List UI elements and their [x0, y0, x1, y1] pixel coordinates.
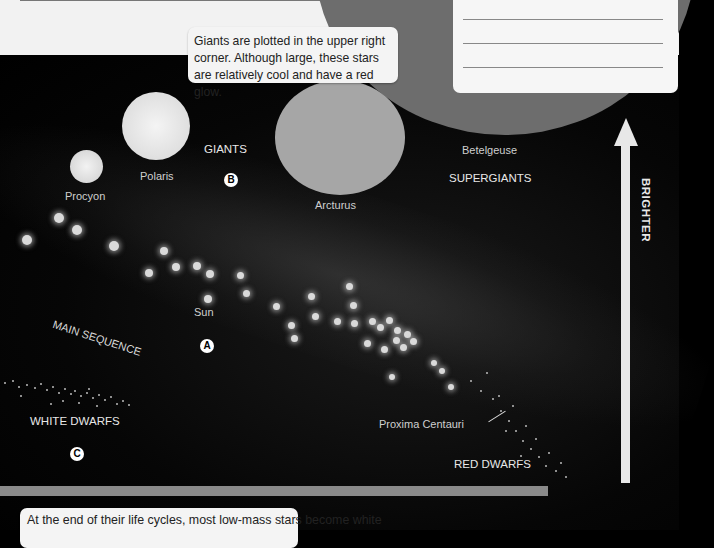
marker-c: C	[70, 447, 84, 461]
star-dot	[334, 318, 341, 325]
label-red-dwarfs: RED DWARFS	[454, 458, 531, 470]
star-dot	[404, 331, 411, 338]
label-giants: GIANTS	[204, 143, 247, 155]
temperature-axis-bar	[0, 486, 548, 496]
star-dot	[273, 303, 280, 310]
star-dot	[394, 327, 401, 334]
label-proxima-centauri: Proxima Centauri	[379, 418, 464, 430]
star-dot	[172, 263, 180, 271]
marker-b: B	[224, 173, 238, 187]
star-dot	[400, 344, 407, 351]
star-dot	[351, 320, 358, 327]
notes-line	[463, 67, 663, 68]
star-dot	[369, 318, 376, 325]
star-dot	[145, 269, 153, 277]
star-dot	[346, 283, 353, 290]
star-dot	[109, 241, 119, 251]
star-dot	[389, 374, 395, 380]
star-dot	[431, 360, 437, 366]
star-dot	[243, 290, 250, 297]
star-dot	[237, 272, 244, 279]
star-dot	[54, 213, 64, 223]
star-dot	[160, 247, 168, 255]
star-dot	[381, 346, 388, 353]
star-dot	[288, 322, 295, 329]
label-polaris: Polaris	[140, 170, 174, 182]
star-polaris	[122, 92, 190, 160]
star-dot	[393, 337, 400, 344]
label-betelgeuse: Betelgeuse	[462, 144, 517, 156]
label-supergiants: SUPERGIANTS	[449, 172, 531, 184]
star-dot-sun	[204, 295, 212, 303]
marker-a: A	[200, 339, 214, 353]
label-brighter: BRIGHTER	[640, 178, 652, 242]
star-dot	[72, 225, 82, 235]
white-dwarfs-callout: At the end of their life cycles, most lo…	[20, 508, 298, 548]
notes-line	[463, 19, 663, 20]
star-dot	[386, 317, 393, 324]
star-dot	[193, 262, 201, 270]
arrow-up-icon	[614, 118, 638, 146]
star-dot	[410, 338, 417, 345]
star-dot	[448, 384, 454, 390]
star-dot	[377, 324, 384, 331]
star-dot	[206, 270, 214, 278]
notes-line	[463, 43, 663, 44]
notes-box[interactable]	[453, 0, 678, 93]
star-dot	[439, 368, 445, 374]
star-dot	[291, 335, 298, 342]
label-arcturus: Arcturus	[315, 199, 356, 211]
giants-callout: Giants are plotted in the upper right co…	[188, 27, 398, 83]
star-procyon	[70, 150, 103, 183]
star-arcturus	[275, 80, 405, 195]
label-sun: Sun	[194, 306, 214, 318]
star-dot	[308, 293, 315, 300]
label-white-dwarfs: WHITE DWARFS	[30, 415, 120, 427]
label-procyon: Procyon	[65, 190, 105, 202]
brightness-arrow-shaft	[621, 143, 630, 483]
star-dot	[364, 340, 371, 347]
star-dot	[350, 302, 357, 309]
star-dot	[22, 235, 32, 245]
star-dot	[312, 313, 319, 320]
